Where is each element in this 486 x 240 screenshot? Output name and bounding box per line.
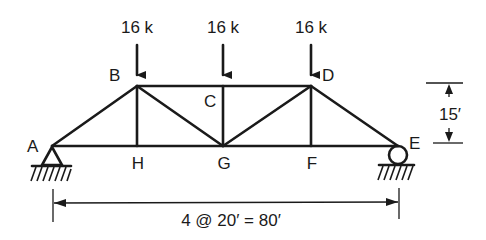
load-label-C: 16 k: [207, 18, 240, 37]
truss-diagram: 16 k 16 k 16 k A B C D E F G H: [0, 0, 486, 240]
arrow-left-icon: [54, 199, 66, 207]
member-DE: [311, 86, 398, 146]
span-dim-line: [54, 202, 398, 203]
span-dimension-label: 4 @ 20′ = 80′: [181, 211, 281, 230]
height-dimension: 15′: [426, 83, 463, 143]
joint-label-F: F: [307, 154, 317, 173]
joint-label-H: H: [132, 154, 144, 173]
arrow-right-icon: [386, 198, 398, 206]
member-DG: [223, 86, 311, 146]
truss-members: [52, 86, 398, 146]
height-dimension-label: 15′: [439, 105, 461, 124]
joint-label-D: D: [322, 66, 334, 85]
member-AB: [52, 86, 137, 146]
joint-label-C: C: [204, 92, 216, 111]
roller-circle-icon: [389, 146, 407, 164]
joint-label-A: A: [27, 137, 39, 156]
joint-label-G: G: [217, 154, 230, 173]
load-label-B: 16 k: [121, 18, 154, 37]
load-labels: 16 k 16 k 16 k: [121, 18, 328, 37]
arrow-up-icon: [445, 84, 453, 94]
ground-hatch-A-icon: [31, 167, 71, 181]
span-dimension: 4 @ 20′ = 80′: [53, 188, 399, 230]
ground-hatch-E-icon: [378, 166, 413, 180]
load-arrows: [137, 45, 311, 75]
pin-triangle-icon: [42, 147, 62, 165]
joint-label-B: B: [109, 66, 120, 85]
load-label-D: 16 k: [295, 18, 328, 37]
arrow-down-icon: [445, 132, 453, 142]
joint-label-E: E: [409, 134, 420, 153]
